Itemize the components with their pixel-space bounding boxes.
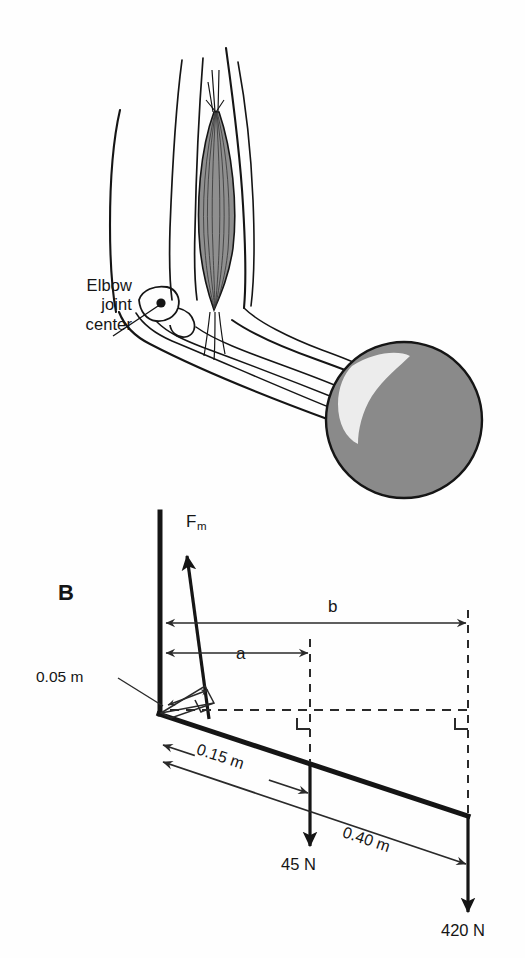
dimension-line-040 bbox=[163, 762, 466, 864]
panel-b-label: B bbox=[58, 580, 74, 606]
muscle-force-label: Fm bbox=[186, 512, 206, 532]
dimension-label-b: b bbox=[328, 597, 337, 617]
dimension-label-a: a bbox=[236, 644, 245, 664]
dimension-line-005 bbox=[168, 690, 208, 705]
forearm-weight-label: 45 N bbox=[281, 855, 316, 874]
figure-root: Elbow joint center bbox=[0, 0, 525, 958]
ball-weight-label: 420 N bbox=[441, 921, 485, 940]
panel-b-free-body-diagram bbox=[0, 0, 525, 958]
dimension-label-005: 0.05 m bbox=[36, 668, 83, 686]
muscle-force-subscript: m bbox=[197, 520, 207, 532]
muscle-force-symbol: F bbox=[186, 512, 196, 531]
leader-line-005 bbox=[118, 678, 163, 706]
right-angle-marker-b bbox=[455, 718, 468, 729]
right-angle-marker-a bbox=[297, 718, 310, 729]
